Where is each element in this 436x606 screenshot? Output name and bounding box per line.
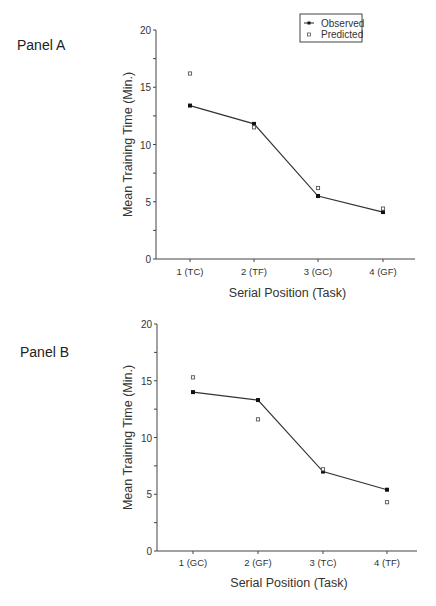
observed-line xyxy=(193,392,387,490)
x-tick-label: 1 (GC) xyxy=(179,557,208,568)
observed-marker xyxy=(191,390,195,394)
observed-marker xyxy=(256,398,260,402)
observed-line xyxy=(190,106,383,212)
legend-predicted-marker-icon xyxy=(308,33,311,36)
y-tick-label: 0 xyxy=(145,254,151,265)
y-tick-label: 20 xyxy=(140,25,152,36)
predicted-marker xyxy=(191,376,194,379)
chart-canvas: 051015201 (TC)2 (TF)3 (GC)4 (GF)Serial P… xyxy=(0,0,436,606)
observed-marker xyxy=(188,104,192,108)
predicted-marker xyxy=(252,126,255,129)
y-axis-title: Mean Training Time (Min.) xyxy=(121,365,135,510)
y-tick-label: 5 xyxy=(145,197,151,208)
legend-predicted-label: Predicted xyxy=(321,29,363,40)
y-tick-label: 10 xyxy=(141,433,153,444)
y-tick-label: 0 xyxy=(146,546,152,557)
predicted-marker xyxy=(321,468,324,471)
predicted-marker xyxy=(381,207,384,210)
predicted-marker xyxy=(385,501,388,504)
y-axis-title: Mean Training Time (Min.) xyxy=(121,72,135,217)
y-tick-label: 5 xyxy=(146,489,152,500)
observed-marker xyxy=(385,488,389,492)
x-tick-label: 3 (TC) xyxy=(310,557,337,568)
x-axis-title: Serial Position (Task) xyxy=(230,576,347,590)
x-tick-label: 1 (TC) xyxy=(177,266,204,277)
x-tick-label: 2 (TF) xyxy=(241,266,267,277)
y-tick-label: 15 xyxy=(140,82,152,93)
x-tick-label: 3 (GC) xyxy=(304,266,333,277)
y-tick-label: 15 xyxy=(141,376,153,387)
x-tick-label: 4 (TF) xyxy=(374,557,400,568)
y-tick-label: 10 xyxy=(140,140,152,151)
y-tick-label: 20 xyxy=(141,319,153,330)
predicted-marker xyxy=(256,418,259,421)
x-tick-label: 2 (GF) xyxy=(244,557,271,568)
observed-marker xyxy=(316,194,320,198)
legend-observed-marker-icon xyxy=(308,22,311,25)
x-axis-title: Serial Position (Task) xyxy=(229,286,346,300)
predicted-marker xyxy=(188,72,191,75)
x-tick-label: 4 (GF) xyxy=(369,266,396,277)
predicted-marker xyxy=(316,186,319,189)
legend-observed-label: Observed xyxy=(321,18,364,29)
